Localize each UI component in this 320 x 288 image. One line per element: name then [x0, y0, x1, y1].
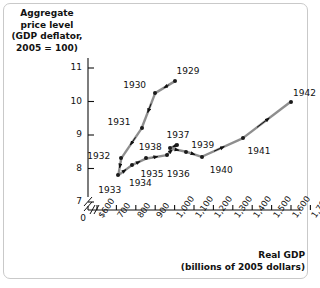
x-origin-label: 0 [64, 213, 86, 223]
data-point-label: 1932 [87, 151, 110, 161]
data-point [175, 143, 179, 147]
data-point-label: 1929 [177, 66, 200, 76]
data-point [289, 100, 293, 104]
data-point-label: 1937 [167, 130, 190, 140]
data-point-label: 1938 [139, 142, 162, 152]
data-point [140, 126, 144, 130]
y-tick-label: 9 [60, 129, 82, 139]
data-point-label: 1934 [129, 178, 152, 188]
y-tick-label: 10 [60, 96, 82, 106]
data-point-label: 1935 [140, 169, 163, 179]
data-point-label: 1939 [191, 140, 214, 150]
chart-series-path [118, 81, 291, 175]
y-tick-label: 7 [60, 196, 82, 206]
data-point-label: 1936 [167, 169, 190, 179]
data-point [200, 155, 204, 159]
data-point-label: 1942 [293, 88, 313, 98]
data-point-label: 1933 [98, 185, 121, 195]
y-tick-label: 11 [60, 62, 82, 72]
data-point-label: 1941 [248, 146, 271, 156]
data-point [184, 150, 188, 154]
data-point [241, 136, 245, 140]
y-tick-label: 8 [60, 163, 82, 173]
data-point-label: 1940 [210, 165, 233, 175]
data-point-label: 1931 [108, 117, 131, 127]
data-point [165, 153, 169, 157]
data-point-label: 1930 [123, 80, 146, 90]
